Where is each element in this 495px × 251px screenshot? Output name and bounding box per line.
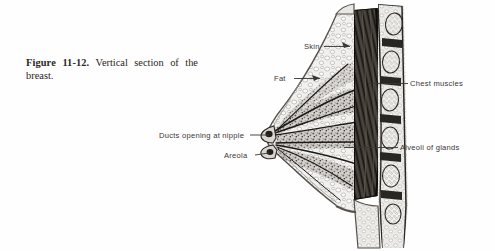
breast-section-illustration xyxy=(258,0,495,251)
label-skin: Skin xyxy=(304,42,320,51)
figure-number: Figure 11-12. xyxy=(26,57,89,68)
label-areola: Areola xyxy=(224,151,247,160)
figure-caption: Figure 11-12. Vertical section of the br… xyxy=(26,56,198,82)
figure-page: Figure 11-12. Vertical section of the br… xyxy=(0,0,495,251)
label-ducts: Ducts opening at nipple xyxy=(159,131,244,140)
label-fat: Fat xyxy=(274,74,286,83)
label-alveoli: Alveoli of glands xyxy=(400,143,460,152)
label-chest-muscles: Chest muscles xyxy=(410,79,463,88)
